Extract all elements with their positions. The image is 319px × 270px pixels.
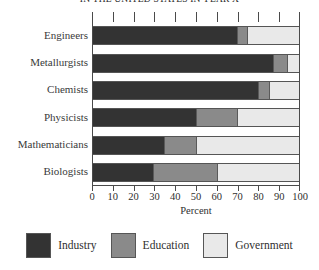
x-tick-mark — [175, 12, 176, 22]
bar-segment-industry — [93, 55, 273, 72]
x-tick-label: 90 — [274, 191, 285, 202]
bar-segment-education — [164, 137, 196, 154]
bar-segment-industry — [93, 137, 164, 154]
bar-stack — [92, 136, 300, 155]
x-tick-label: 70 — [232, 191, 243, 202]
bar-segment-government — [217, 164, 299, 181]
x-tick-mark — [217, 12, 218, 22]
plot-area — [92, 22, 300, 186]
bar-stack — [92, 54, 300, 73]
x-tick-label: 30 — [149, 191, 160, 202]
x-tick-mark — [113, 12, 114, 22]
bar-row — [92, 136, 300, 155]
bar-segment-education — [258, 82, 269, 99]
chart-title: IN THE UNITED STATES IN YEAR X — [0, 0, 319, 4]
chart-figure: IN THE UNITED STATES IN YEAR X Engineers… — [0, 0, 319, 270]
x-tick-mark — [238, 12, 239, 22]
x-axis-ticks-top — [92, 12, 300, 22]
x-tick-label: 0 — [89, 191, 94, 202]
y-axis-label: Engineers — [0, 29, 88, 41]
y-axis-category-labels: EngineersMetallurgistsChemistsPhysicists… — [0, 22, 88, 186]
x-tick-mark — [279, 12, 280, 22]
legend-item-industry: Industry — [26, 233, 96, 258]
x-axis-title: Percent — [92, 205, 300, 216]
legend-swatch-government — [203, 233, 228, 258]
y-axis-label: Biologists — [0, 165, 88, 177]
x-tick-mark — [92, 12, 93, 22]
x-tick-label: 80 — [253, 191, 264, 202]
legend-swatch-education — [111, 233, 136, 258]
legend-item-government: Government — [203, 233, 292, 258]
bar-stack — [92, 163, 300, 182]
bar-row — [92, 163, 300, 182]
bar-row — [92, 81, 300, 100]
bar-segment-government — [287, 55, 299, 72]
bar-segment-education — [153, 164, 217, 181]
x-axis-tick-labels: 0102030405060708090100 — [92, 191, 300, 205]
plot-frame-border — [92, 22, 300, 186]
bar-segment-education — [273, 55, 286, 72]
bar-segment-industry — [93, 164, 153, 181]
x-tick-label: 10 — [108, 191, 119, 202]
x-tick-mark — [299, 12, 300, 22]
bar-segment-education — [237, 27, 247, 44]
bar-segment-government — [247, 27, 299, 44]
y-axis-label: Physicists — [0, 111, 88, 123]
bar-segment-education — [196, 109, 237, 126]
chart-legend: IndustryEducationGovernment — [0, 228, 319, 262]
legend-swatch-industry — [26, 233, 51, 258]
bar-segment-industry — [93, 109, 196, 126]
legend-label: Education — [143, 239, 190, 251]
bar-segment-industry — [93, 27, 237, 44]
x-tick-label: 50 — [191, 191, 202, 202]
x-tick-label: 100 — [292, 191, 308, 202]
bar-stack — [92, 108, 300, 127]
bar-stack — [92, 81, 300, 100]
legend-label: Government — [235, 239, 292, 251]
legend-label: Industry — [58, 239, 96, 251]
bar-row — [92, 108, 300, 127]
bar-row — [92, 54, 300, 73]
x-tick-label: 40 — [170, 191, 181, 202]
bar-row — [92, 26, 300, 45]
bar-stack — [92, 26, 300, 45]
bar-segment-government — [196, 137, 299, 154]
x-tick-mark — [134, 12, 135, 22]
x-tick-mark — [196, 12, 197, 22]
legend-item-education: Education — [111, 233, 190, 258]
y-axis-label: Metallurgists — [0, 56, 88, 68]
x-tick-mark — [258, 12, 259, 22]
bar-segment-industry — [93, 82, 258, 99]
x-tick-mark — [154, 12, 155, 22]
x-tick-label: 20 — [128, 191, 139, 202]
y-axis-label: Mathematicians — [0, 138, 88, 150]
bar-segment-government — [237, 109, 299, 126]
x-tick-label: 60 — [212, 191, 223, 202]
bar-segment-government — [269, 82, 299, 99]
y-axis-label: Chemists — [0, 83, 88, 95]
